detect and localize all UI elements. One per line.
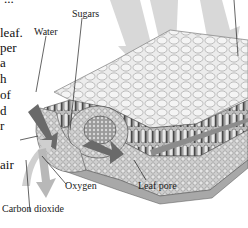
label-sugars: Sugars [72,8,99,19]
label-oxygen: Oxygen [65,180,97,191]
body-text-line-2: per [0,41,17,54]
body-text-line-6: d [0,104,7,117]
body-text-line-7: r [0,119,4,132]
body-text-line-4: h [0,72,7,85]
body-text-line-5: of [0,88,11,101]
label-water: Water [34,26,58,37]
body-text-line-1: leaf. [0,26,23,39]
label-leaf-pore: Leaf pore [138,180,177,191]
body-text-line-8: air [0,158,14,171]
body-text-line-3: a [0,56,6,69]
body-text-fragment-top: ... [4,0,14,5]
label-carbon-dioxide: Carbon dioxide [2,203,64,214]
